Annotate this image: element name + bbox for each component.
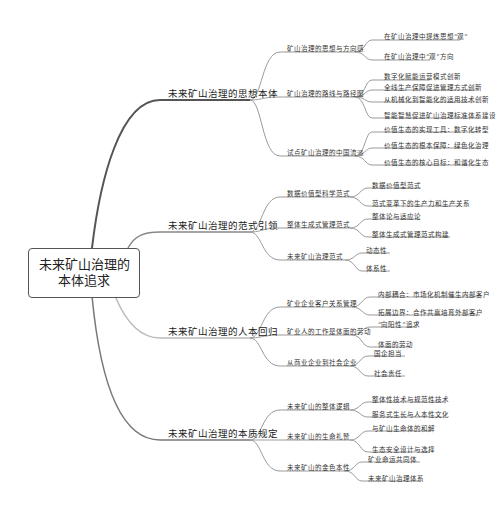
leaf[interactable]: 从机械化到智能化的适用技术创新 [384,94,489,104]
root-title-line1: 未来矿山治理的 [39,257,130,273]
leaf[interactable]: 价值生态的核心目标：和谐化生态 [384,157,489,167]
leaf[interactable]: 整体论与适应论 [372,211,421,221]
node[interactable]: 试点矿山治理的中国流派 [287,147,364,157]
node[interactable]: 从商业企业到社会企业 [287,357,357,367]
node[interactable]: 矿山治理的路线与路径图 [287,88,364,98]
root-title-line2: 本体追求 [58,273,110,289]
node[interactable]: 未来矿山的整体逻辑 [287,401,350,411]
node[interactable]: 矿业人的工作是体面的劳动 [287,326,371,336]
leaf[interactable]: 生态安全设计与选择 [372,444,435,454]
leaf[interactable]: 未来矿山治理体系 [368,473,424,483]
leaf[interactable]: 拓展边界：合作共赢培育外部客户 [378,307,483,317]
branch-humanism-return[interactable]: 未来矿山治理的人本回归 [168,324,278,338]
node[interactable]: 未来矿山的金色本性 [287,462,350,472]
leaf[interactable]: 动态性 [366,245,387,255]
leaf[interactable]: 价值生态的实现工具：数字化转型 [384,124,489,134]
leaf[interactable]: 体系性 [366,263,387,273]
leaf[interactable]: 矿业命运共同体 [368,454,417,464]
leaf[interactable]: 与矿山生命体的和解 [372,423,435,433]
branch-paradigm-lead[interactable]: 未来矿山治理的范式引领 [168,218,278,232]
leaf[interactable]: 价值生态的根本保障：绿色化治理 [384,140,489,150]
node[interactable]: 未来矿山治理范式 [287,251,343,261]
leaf[interactable]: 整体性技术与规范性技术 [372,394,449,404]
leaf[interactable]: 在矿山治理中提炼思想“观” [384,31,468,41]
leaf[interactable]: “向阳性”追求 [378,319,420,329]
node[interactable]: 数据价值型科学范式 [287,188,350,198]
node[interactable]: 矿山治理的思想与方向感 [287,43,364,53]
leaf[interactable]: 范式变革下的生产力和生产关系 [372,198,470,208]
leaf[interactable]: 内部耦合：市场化机制催生内部客户 [378,289,490,299]
leaf[interactable]: 智能智慧促进矿山治理标准体系建设 [384,110,496,120]
leaf[interactable]: 整体生成式管理范式构建 [372,229,449,239]
leaf[interactable]: 数据价值型范式 [372,180,421,190]
node[interactable]: 未来矿山的生命礼赞 [287,431,350,441]
leaf[interactable]: 国企担当 [374,348,402,358]
leaf[interactable]: 全线生产保障促进管理方式创新 [384,82,482,92]
leaf[interactable]: 社会责任 [374,368,402,378]
branch-thought-ontology[interactable]: 未来矿山治理的思想本体 [168,86,278,100]
leaf[interactable]: 服务式生长与人本性文化 [372,409,449,419]
branch-essential-rule[interactable]: 未来矿山治理的本质规定 [168,426,278,440]
node[interactable]: 整体生成式管理范式 [287,219,350,229]
root-node[interactable]: 未来矿山治理的 本体追求 [28,248,140,298]
leaf[interactable]: 在矿山治理中“观”方向 [384,51,454,61]
leaf[interactable]: 数字化赋能运营模式创新 [384,71,461,81]
node[interactable]: 矿业企业客户关系管理 [287,298,357,308]
